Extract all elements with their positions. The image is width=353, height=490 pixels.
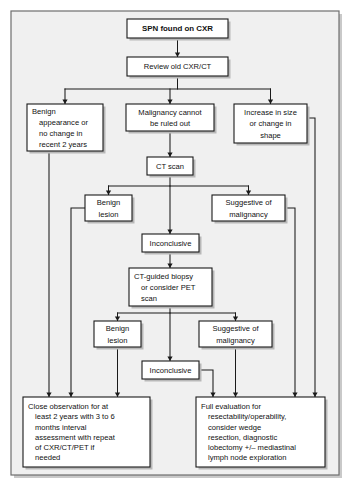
node-label-line: lesion	[108, 336, 128, 345]
node-increase-in-size-or-change-in-shape: Increase in sizeor change inshape	[234, 104, 310, 146]
node-label-line: be ruled out	[150, 119, 191, 128]
node-label-line: Increase in size	[244, 108, 297, 117]
node-label-line: or change in	[250, 119, 292, 128]
node-ct-scan: CT scan	[147, 157, 196, 178]
node-label-line: assessment with repeat	[35, 433, 116, 442]
node-label-line: lymph node exploration	[208, 453, 287, 462]
node-benign-lesion-biopsy: Benignlesion	[94, 321, 144, 350]
node-benign-lesion-ct: Benignlesion	[85, 195, 135, 224]
node-label-line: Review old CXR/CT	[144, 62, 212, 71]
node-label-line: scan	[141, 294, 157, 303]
node-full-evaluation-outcome: Full evaluation forresectability/operabi…	[196, 397, 328, 470]
node-spn-found-on-cxr: SPN found on CXR	[127, 19, 231, 41]
node-label-line: appearance or	[39, 118, 88, 127]
node-malignancy-cannot-be-ruled-out: Malignancy cannotbe ruled out	[126, 104, 217, 134]
node-label-line: CT scan	[156, 162, 184, 171]
node-review-old-cxr-ct: Review old CXR/CT	[127, 57, 231, 79]
node-label-line: Malignancy cannot	[138, 108, 202, 117]
node-label-line: Benign	[32, 107, 56, 116]
node-inconclusive-ct: Inconclusive	[142, 234, 202, 255]
node-label-line: resectability/operability,	[208, 412, 286, 421]
node-label-line: Inconclusive	[150, 239, 192, 248]
node-label-line: or consider PET	[141, 283, 196, 292]
node-benign-appearance-or-no-change: Benignappearance orno change inrecent 2 …	[27, 104, 106, 154]
node-label-line: Inconclusive	[150, 366, 192, 375]
node-suggestive-of-malignancy-ct: Suggestive ofmalignancy	[212, 195, 288, 224]
node-label-line: no change in	[39, 129, 83, 138]
node-label-line: malignancy	[216, 336, 255, 345]
node-label-line: Benign	[106, 324, 130, 333]
node-label-line: Suggestive of	[212, 324, 259, 333]
node-ct-guided-biopsy-or-pet: CT-guided biopsyor consider PETscan	[129, 268, 215, 309]
node-label-line: needed	[35, 453, 60, 462]
node-label-line: shape	[260, 131, 281, 140]
node-label-line: SPN found on CXR	[142, 24, 213, 33]
node-label-line: Close observation for at	[28, 402, 109, 411]
node-inconclusive-biopsy: Inconclusive	[142, 361, 202, 382]
node-label-line: lesion	[99, 210, 119, 219]
node-label-line: Benign	[97, 198, 121, 207]
flowchart-canvas: SPN found on CXRReview old CXR/CTBenigna…	[0, 0, 353, 490]
node-label-line: lobectomy +/– mediastinal	[208, 443, 296, 452]
node-label-line: least 2 years with 3 to 6	[35, 412, 115, 421]
node-label-line: resection, diagnostic	[208, 433, 277, 442]
node-label-line: Suggestive of	[225, 198, 272, 207]
flowchart-root: SPN found on CXRReview old CXR/CTBenigna…	[0, 0, 353, 490]
node-label-line: of CXR/CT/PET if	[35, 443, 95, 452]
node-label-line: Full evaluation for	[201, 402, 261, 411]
node-label-line: malignancy	[229, 210, 268, 219]
node-label-line: recent 2 years	[39, 140, 87, 149]
node-label-line: CT-guided biopsy	[134, 272, 193, 281]
node-label-line: consider wedge	[208, 423, 261, 432]
node-label-line: months interval	[35, 423, 87, 432]
node-close-observation-outcome: Close observation for atleast 2 years wi…	[23, 397, 153, 470]
node-suggestive-of-malignancy-biopsy: Suggestive ofmalignancy	[199, 321, 275, 350]
